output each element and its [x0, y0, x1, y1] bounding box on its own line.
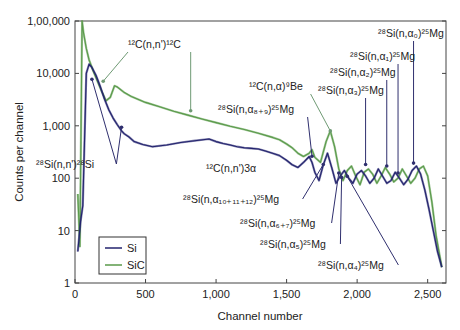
- y-tick-label: 10,000: [36, 67, 70, 79]
- arrow-head-icon: [412, 161, 416, 165]
- arrow-head-icon: [310, 154, 314, 158]
- annotation-label: ²⁸Si(n,α₄)²⁵Mg: [318, 259, 384, 271]
- chart-canvas: 1101001,00010,0001,00,000 05001,0001,500…: [0, 0, 460, 330]
- arrow-head-icon: [120, 126, 124, 130]
- annotation-arrow: [116, 127, 121, 164]
- annotation-label: ²⁸Si(n,α₈₊₉)²⁵Mg: [218, 103, 294, 115]
- arrow-head-icon: [364, 163, 368, 167]
- annotation-arrow: [340, 178, 341, 244]
- y-tick-label: 1,000: [42, 120, 70, 132]
- arrow-head-icon: [337, 171, 341, 175]
- y-tick-label: 1: [64, 277, 70, 289]
- y-tick-label: 1,00,000: [27, 15, 70, 27]
- legend-label-sic: SiC: [127, 259, 145, 271]
- annotation-label: ²⁸Si(n,α₆₊₇)²⁵Mg: [240, 217, 316, 229]
- x-tick-label: 2,500: [414, 288, 442, 300]
- annotation-arrow: [347, 176, 398, 265]
- annotation-arrow: [308, 117, 312, 156]
- x-tick-label: 2,000: [343, 288, 371, 300]
- arrow-head-icon: [321, 163, 325, 167]
- arrow-head-icon: [340, 176, 344, 180]
- annotation-label: ²⁸Si(n,n')²⁸Si: [36, 158, 94, 170]
- spectrum-chart: 1101001,00010,0001,00,000 05001,0001,500…: [0, 0, 460, 330]
- arrow-head-icon: [385, 164, 389, 168]
- y-axis-label: Counts per channel: [13, 102, 25, 202]
- annotation-label: ¹²C(n,n')¹²C: [128, 38, 181, 50]
- x-axis-label: Channel number: [217, 310, 302, 322]
- arrow-head-icon: [101, 79, 105, 83]
- x-axis: 05001,0001,5002,0002,500: [72, 279, 441, 300]
- legend-label-si: Si: [127, 242, 137, 254]
- y-tick-label: 100: [52, 172, 70, 184]
- annotation-label: ²⁸Si(n,α₁₀₊₁₁₊₁₂)²⁵Mg: [183, 193, 279, 205]
- arrow-head-icon: [90, 77, 94, 81]
- arrow-head-icon: [329, 129, 333, 133]
- annotation-layer: ¹²C(n,n')¹²C²⁸Si(n,n')²⁸Si¹²C(n,n')3α¹²C…: [36, 27, 444, 271]
- annotation-label: ¹²C(n,n')3α: [206, 162, 256, 174]
- annotation-label: ²⁸Si(n,α₂)²⁵Mg: [330, 66, 396, 78]
- annotation-label: ²⁸Si(n,α₅)²⁵Mg: [260, 238, 326, 250]
- x-tick-label: 1,500: [273, 288, 301, 300]
- annotation-label: ²⁸Si(n,α₀)²⁵Mg: [378, 27, 444, 39]
- x-tick-label: 500: [136, 288, 154, 300]
- x-tick-label: 0: [72, 288, 78, 300]
- annotation-label: ¹²C(n,α)⁹Be: [249, 80, 303, 92]
- annotation-arrow: [311, 94, 331, 131]
- annotation-label: ²⁸Si(n,α₁)²⁵Mg: [350, 50, 415, 62]
- x-tick-label: 1,000: [202, 288, 230, 300]
- arrow-head-icon: [396, 171, 400, 175]
- arrow-head-icon: [345, 175, 349, 179]
- arrow-head-icon: [189, 109, 193, 113]
- legend: Si SiC: [99, 237, 146, 274]
- annotation-label: ²⁸Si(n,α₃)²⁵Mg: [318, 84, 384, 96]
- annotation-arrow: [103, 52, 128, 81]
- y-tick-label: 10: [58, 225, 70, 237]
